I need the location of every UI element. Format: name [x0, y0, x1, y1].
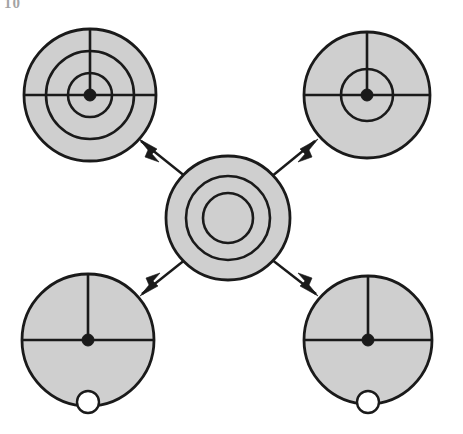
- node-hub-dot: [362, 334, 374, 346]
- figure-canvas: 10: [0, 0, 463, 434]
- node-port-circle: [77, 391, 99, 413]
- arrowhead-icon: [298, 273, 318, 296]
- node-port-circle: [357, 391, 379, 413]
- center-node[interactable]: [166, 156, 290, 280]
- top-right-node[interactable]: [304, 32, 430, 158]
- connector-hub-to-top-left[interactable]: [139, 139, 186, 177]
- bottom-left-node[interactable]: [22, 274, 154, 413]
- arrowhead-icon: [139, 139, 159, 162]
- node-hub-dot: [84, 89, 96, 101]
- connector-hub-to-bottom-left[interactable]: [140, 259, 186, 296]
- arrowhead-icon: [298, 139, 318, 162]
- node-hub-dot: [361, 89, 373, 101]
- arrowhead-icon: [140, 273, 160, 296]
- node-hub-dot: [82, 334, 94, 346]
- top-left-node[interactable]: [24, 29, 156, 161]
- connector-hub-to-bottom-right[interactable]: [271, 259, 318, 296]
- concentric-circle-diagram: [0, 0, 463, 434]
- connector-hub-to-top-right[interactable]: [271, 139, 318, 177]
- bottom-right-node[interactable]: [304, 276, 432, 413]
- figure-caption-fragment: 10: [4, 0, 21, 12]
- node-outer-disc: [166, 156, 290, 280]
